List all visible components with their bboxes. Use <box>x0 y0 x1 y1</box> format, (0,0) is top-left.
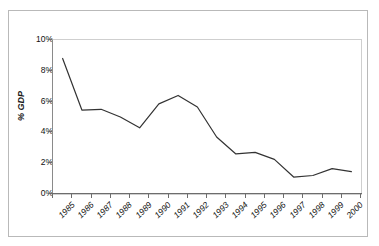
x-tick-mark <box>341 194 342 198</box>
x-tick-mark <box>168 194 169 198</box>
x-tick-mark <box>71 194 72 198</box>
x-tick-mark <box>283 194 284 198</box>
x-tick-mark <box>129 194 130 198</box>
x-tick-mark <box>264 194 265 198</box>
x-tick-mark <box>360 194 361 198</box>
x-tick-mark <box>225 194 226 198</box>
x-tick-mark <box>322 194 323 198</box>
y-axis-tick-labels: 0%2%4%6%8%10% <box>9 11 53 238</box>
x-tick-mark <box>148 194 149 198</box>
x-axis-tick-labels: 1985198619871988198919901991199219931994… <box>52 199 362 237</box>
x-axis-ticks <box>52 194 362 198</box>
plot-area <box>52 39 362 195</box>
x-tick-mark <box>91 194 92 198</box>
x-tick-mark <box>110 194 111 198</box>
x-tick-mark <box>245 194 246 198</box>
x-tick-mark <box>52 194 53 198</box>
series-line-gdp <box>63 58 352 177</box>
chart-figure: % GDP 0%2%4%6%8%10% 19851986198719881989… <box>8 10 368 237</box>
x-tick-mark <box>302 194 303 198</box>
x-tick-mark <box>206 194 207 198</box>
x-tick-mark <box>187 194 188 198</box>
line-series-svg <box>53 40 361 194</box>
